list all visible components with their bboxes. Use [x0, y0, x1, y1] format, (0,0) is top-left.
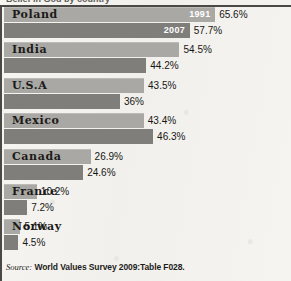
bar-row: Norway5.1%: [4, 219, 287, 234]
country-label: Mexico: [12, 114, 60, 127]
value-label-1991: 26.9%: [95, 150, 123, 163]
source-label: Source:: [6, 262, 32, 272]
bar-group: France10.2%7.2%: [4, 184, 287, 215]
bar-chart-plot: Poland199165.6%200757.7%India54.5%44.2%U…: [4, 7, 287, 255]
country-label: Poland: [12, 8, 58, 21]
bar-2007: [4, 235, 18, 250]
value-label-1991: 54.5%: [183, 43, 211, 56]
value-label-2007: 24.6%: [87, 166, 115, 179]
bar-group: Mexico43.4%46.3%: [4, 113, 287, 144]
bar-2007: [4, 58, 146, 73]
bar-group: Canada26.9%24.6%: [4, 149, 287, 180]
bar-row: Poland199165.6%: [4, 7, 287, 22]
bar-row: India54.5%: [4, 42, 287, 57]
bar-row: 44.2%: [4, 58, 287, 73]
value-label-2007: 44.2%: [150, 59, 178, 72]
value-label-2007: 7.2%: [31, 201, 54, 214]
country-label: India: [12, 43, 47, 56]
bar-row: 4.5%: [4, 235, 287, 250]
source-text: World Values Survey 2009:Table F028.: [35, 262, 185, 272]
bar-group: India54.5%44.2%: [4, 42, 287, 73]
bar-group: U.S.A43.5%36%: [4, 78, 287, 109]
bar-row: France10.2%: [4, 184, 287, 199]
bar-row: Canada26.9%: [4, 149, 287, 164]
value-label-2007: 57.7%: [194, 24, 222, 37]
bar-2007: [4, 165, 83, 180]
value-label-1991: 43.4%: [148, 114, 176, 127]
bar-2007: [4, 129, 153, 144]
bar-2007: [4, 94, 120, 109]
bar-row: 7.2%: [4, 200, 287, 215]
chart-figure: Belief in God by country Poland199165.6%…: [0, 0, 291, 281]
country-label: Canada: [12, 150, 61, 163]
year-label-2007: 2007: [164, 25, 185, 36]
year-label-1991: 1991: [189, 9, 210, 20]
value-label-2007: 4.5%: [22, 236, 45, 249]
bar-group: Poland199165.6%200757.7%: [4, 7, 287, 38]
country-label: U.S.A: [12, 79, 47, 92]
bar-row: Mexico43.4%: [4, 113, 287, 128]
value-label-2007: 46.3%: [157, 130, 185, 143]
value-label-1991: 65.6%: [219, 8, 247, 21]
value-label-1991: 43.5%: [148, 79, 176, 92]
bar-2007: [4, 200, 27, 215]
source-note: Source: World Values Survey 2009:Table F…: [6, 262, 185, 272]
bar-row: 24.6%: [4, 165, 287, 180]
bar-group: Norway5.1%4.5%: [4, 219, 287, 250]
bar-row: 46.3%: [4, 129, 287, 144]
value-label-2007: 36%: [124, 95, 144, 108]
bar-2007: [4, 23, 190, 38]
bar-row: U.S.A43.5%: [4, 78, 287, 93]
cut-off-title-text: Belief in God by country: [6, 0, 110, 4]
bar-row: 36%: [4, 94, 287, 109]
value-label-1991: 10.2%: [41, 185, 69, 198]
value-label-1991: 5.1%: [24, 220, 47, 233]
bar-row: 200757.7%: [4, 23, 287, 38]
